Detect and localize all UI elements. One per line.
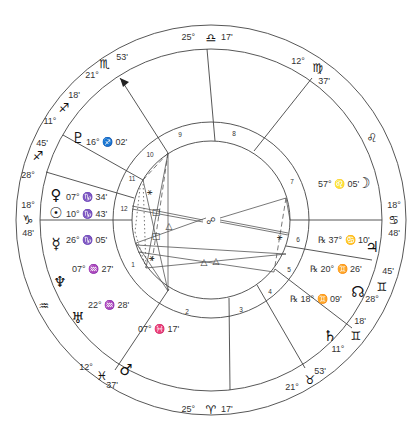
capricorn-icon: ♑: [23, 213, 34, 227]
cusp-degree: 11°: [44, 116, 57, 126]
planet-saturn: ♄℞ 18° ♊ 09': [290, 293, 342, 344]
cusp-minute: 53': [314, 366, 326, 376]
cusp-label-right: 18°♋48': [387, 200, 401, 238]
cusp-degree: 28°: [365, 294, 379, 304]
cancer-icon: ♋: [389, 213, 400, 227]
natal-chart-wheel: ⚹□△□⚹☍⚹△△ 123456789101112 25°♎17'25°♈17'…: [0, 0, 420, 440]
cusp-degree: 12°: [291, 56, 305, 66]
house-number-11: 11: [129, 175, 136, 182]
planet-position: 22° ♒ 28': [88, 299, 130, 310]
sign-label-aquarius: ♒: [39, 299, 50, 313]
sun-icon: ☉: [49, 204, 62, 222]
cusp-degree: 11°: [332, 344, 345, 354]
planet-position: 07° ♒ 27': [72, 263, 114, 274]
house-number-10: 10: [146, 151, 154, 158]
cusp-degree: 28°: [21, 170, 35, 180]
planet-position: ℞ 20° ♊ 26': [310, 263, 362, 274]
cusp-minute: 45': [382, 266, 394, 276]
planet-position: 26° ♑ 05': [66, 234, 108, 245]
planet-position: 07° ♑ 34': [66, 191, 108, 202]
cusp-minute: 18': [354, 316, 366, 326]
planet-position: 16° ♐ 02': [86, 136, 128, 147]
cusp-degree: 18°: [387, 200, 401, 210]
sextile-icon: ⚹: [277, 232, 283, 242]
gemini-2-icon: ♊: [377, 280, 388, 294]
house-cusp-8: [254, 78, 312, 151]
trine-icon: △: [213, 256, 220, 266]
cusp-minute: 18': [68, 90, 80, 100]
mars-icon: ♂: [119, 361, 132, 379]
cusp-minute: 48': [22, 228, 34, 238]
north-node-icon: ☊: [351, 283, 364, 301]
square-icon: □: [152, 231, 161, 241]
cusp-minute: 17': [221, 32, 233, 42]
midheaven-arrow: [120, 78, 129, 87]
planet-position: 10° ♑ 43': [66, 208, 108, 219]
trine-icon: △: [201, 257, 208, 267]
planet-position: ℞ 18° ♊ 09': [290, 293, 342, 304]
cusp-degree: 25°: [181, 32, 195, 42]
aspect-line: [132, 206, 203, 220]
libra-icon: ♎: [206, 31, 217, 45]
house-number-4: 4: [268, 288, 272, 295]
cusp-minute: 45': [36, 138, 48, 148]
pluto-icon: ♇: [71, 129, 84, 147]
cusp-degree: 25°: [181, 404, 195, 414]
sign-label-taurus: ♉21°53': [285, 366, 326, 392]
mercury-icon: ☿: [51, 235, 60, 253]
planet-uranus: ♅22° ♒ 28': [71, 299, 129, 326]
sign-label-pisces: ♓12°37': [79, 362, 118, 390]
house-number-1: 1: [131, 261, 135, 268]
cusp-label-top: 25°♎17': [181, 31, 233, 45]
opposition-icon: ☍: [206, 216, 215, 226]
house-cusp-3: [229, 298, 230, 390]
cusp-degree: 21°: [85, 70, 99, 80]
cusp-minute: 37': [106, 380, 118, 390]
house-number-2: 2: [185, 308, 189, 315]
trine-icon: △: [166, 221, 173, 231]
neptune-icon: ♆: [53, 273, 66, 291]
cusp-minute: 37': [318, 76, 330, 86]
aspect-line: [136, 243, 168, 291]
planet-position: 57° ♌ 05': [318, 178, 360, 189]
house-number-5: 5: [287, 266, 291, 273]
cusp-minute: 53': [116, 52, 128, 62]
gemini-icon: ♊: [351, 329, 362, 343]
aries-icon: ♈: [206, 403, 217, 417]
aspect-line: [220, 198, 286, 218]
planet-pluto: ♇16° ♐ 02': [71, 129, 127, 148]
planet-moon: ☽57° ♌ 05': [318, 174, 371, 192]
cusp-degree: 12°: [79, 362, 93, 372]
planet-mercury: ☿26° ♑ 05': [51, 234, 107, 252]
sextile-icon: ⚹: [147, 187, 153, 197]
cusp-degree: 18°: [21, 200, 35, 210]
sign-label-scorpio: ♏21°53': [85, 52, 128, 80]
sagittarius-icon: ♐: [59, 101, 70, 115]
virgo-icon: ♍: [313, 61, 324, 75]
planet-venus: ♀07° ♑ 34': [51, 186, 108, 204]
cusp-degree: 21°: [285, 382, 299, 392]
planet-position: 07° ♓ 17': [138, 323, 180, 334]
house-cusp-6: [286, 246, 372, 260]
house-number-9: 9: [178, 131, 182, 138]
cusp-minute: 48': [388, 228, 400, 238]
uranus-icon: ♅: [71, 309, 84, 327]
house-number-6: 6: [296, 236, 300, 243]
sign-label-sagittarius: ♐11°18': [44, 90, 81, 126]
house-number-8: 8: [232, 130, 236, 137]
sign-label-leo: ♌: [367, 131, 378, 145]
cusp-label-left: 18°♑48': [21, 200, 35, 238]
venus-icon: ♀: [51, 186, 62, 204]
aspect-symbols: ⚹□△□⚹☍⚹△△: [147, 187, 283, 267]
house-number-12: 12: [120, 205, 128, 212]
scorpio-icon: ♏: [100, 57, 111, 71]
planet-sun: ☉10° ♑ 43': [49, 204, 107, 222]
house-cusp-9: [207, 49, 215, 141]
sagittarius-2-icon: ♐: [33, 149, 44, 163]
planet-neptune: ♆07° ♒ 27': [53, 263, 113, 290]
planet-position: ℞ 37° ♋ 10': [318, 234, 370, 245]
leo-icon: ♌: [367, 131, 378, 145]
saturn-icon: ♄: [323, 327, 336, 345]
midheaven-arrow-icon: [120, 78, 129, 87]
cusp-minute: 17': [221, 404, 233, 414]
